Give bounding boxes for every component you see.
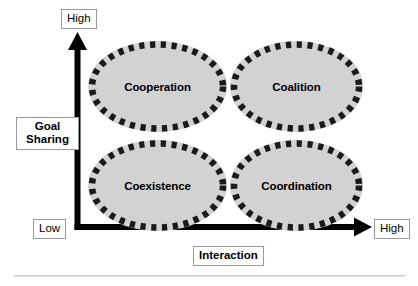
- x-axis-high-label: High: [374, 219, 410, 239]
- y-axis-high-label: High: [61, 9, 97, 29]
- quadrant-label: Cooperation: [124, 81, 191, 93]
- x-axis-title: Interaction: [193, 246, 264, 266]
- y-axis-low-label: Low: [33, 219, 66, 239]
- quadrant-label: Coexistence: [124, 180, 191, 192]
- quadrant-coordination[interactable]: Coordination: [230, 140, 363, 231]
- bottom-divider: [14, 275, 405, 277]
- quadrant-label: Coordination: [261, 180, 331, 192]
- quadrant-diagram: High Goal Sharing Low High Interaction C…: [0, 0, 418, 286]
- y-axis-title: Goal Sharing: [16, 117, 79, 150]
- y-axis-arrowhead: [68, 32, 87, 50]
- quadrant-coalition[interactable]: Coalition: [230, 41, 363, 132]
- quadrant-coexistence[interactable]: Coexistence: [88, 140, 227, 231]
- quadrant-label: Coalition: [272, 81, 320, 93]
- quadrant-cooperation[interactable]: Cooperation: [88, 41, 227, 132]
